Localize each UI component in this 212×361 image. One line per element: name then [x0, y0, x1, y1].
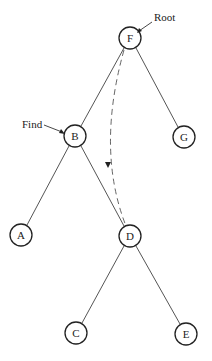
find-label: Find — [22, 118, 43, 130]
find-pointer-line — [44, 125, 62, 132]
edge-b-a — [27, 146, 69, 225]
edge-d-e — [136, 246, 180, 324]
edge-f-g — [136, 48, 178, 127]
find-annotation: Find — [22, 118, 65, 134]
node-label-e: E — [183, 328, 190, 340]
root-pointer-line — [139, 22, 152, 31]
node-label-a: A — [17, 229, 25, 241]
dashed-curve — [110, 50, 126, 226]
node-e: E — [175, 323, 197, 345]
edge-b-d — [81, 146, 124, 226]
node-g: G — [173, 126, 195, 148]
edge-f-b — [81, 48, 124, 126]
find-arrowhead-icon — [59, 129, 65, 134]
tree-diagram: F B G A D C E Root Find — [0, 0, 212, 361]
dashed-arrowhead-icon — [105, 162, 111, 168]
node-f: F — [119, 27, 141, 49]
node-label-b: B — [71, 130, 78, 142]
node-b: B — [64, 125, 86, 147]
tree-edges — [27, 48, 180, 324]
node-c: C — [65, 322, 87, 344]
node-label-c: C — [72, 327, 79, 339]
node-label-d: D — [126, 230, 134, 242]
node-label-g: G — [180, 131, 188, 143]
node-a: A — [10, 224, 32, 246]
node-d: D — [119, 225, 141, 247]
root-label: Root — [154, 11, 175, 23]
edge-d-c — [82, 246, 124, 323]
node-label-f: F — [127, 32, 133, 44]
root-annotation: Root — [137, 11, 175, 33]
